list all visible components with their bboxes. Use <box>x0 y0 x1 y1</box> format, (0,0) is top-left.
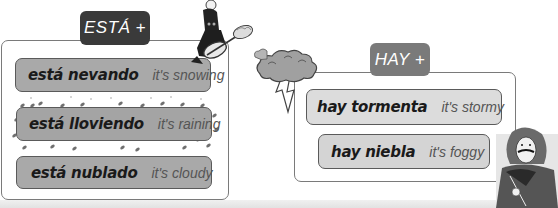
phrase-esta-nevando: está nevando it's snowing <box>15 58 211 92</box>
snowflake-icon <box>30 97 32 99</box>
phrase-esta-lloviendo: está lloviendo it's raining <box>16 107 212 141</box>
snowflake-icon <box>70 96 72 98</box>
phrase-spanish: está nublado <box>31 164 137 182</box>
snowflake-icon <box>110 97 112 99</box>
snowflake-icon <box>200 98 202 100</box>
phrase-english: it's stormy <box>441 99 504 115</box>
phrase-esta-nublado: está nublado it's cloudy <box>16 156 212 189</box>
phrase-spanish: está nevando <box>28 66 139 84</box>
phrase-hay-tormenta: hay tormenta it's stormy <box>306 89 502 125</box>
esta-tag: ESTÁ + <box>80 11 150 45</box>
bottom-band <box>0 200 558 208</box>
phrase-english: it's cloudy <box>151 165 212 181</box>
musketeer-portrait-icon <box>496 126 558 208</box>
phrase-english: it's foggy <box>429 144 484 160</box>
snowflake-icon <box>170 96 172 98</box>
hay-tag: HAY + <box>370 43 430 76</box>
snowflake-icon <box>90 98 92 100</box>
snowflake-icon <box>150 97 152 99</box>
phrase-spanish: está lloviendo <box>29 115 144 133</box>
small-cloud-icon <box>253 47 267 63</box>
phrase-hay-niebla: hay niebla it's foggy <box>318 134 490 169</box>
phrase-spanish: hay niebla <box>331 143 415 161</box>
phrase-english: it's raining <box>158 116 221 132</box>
